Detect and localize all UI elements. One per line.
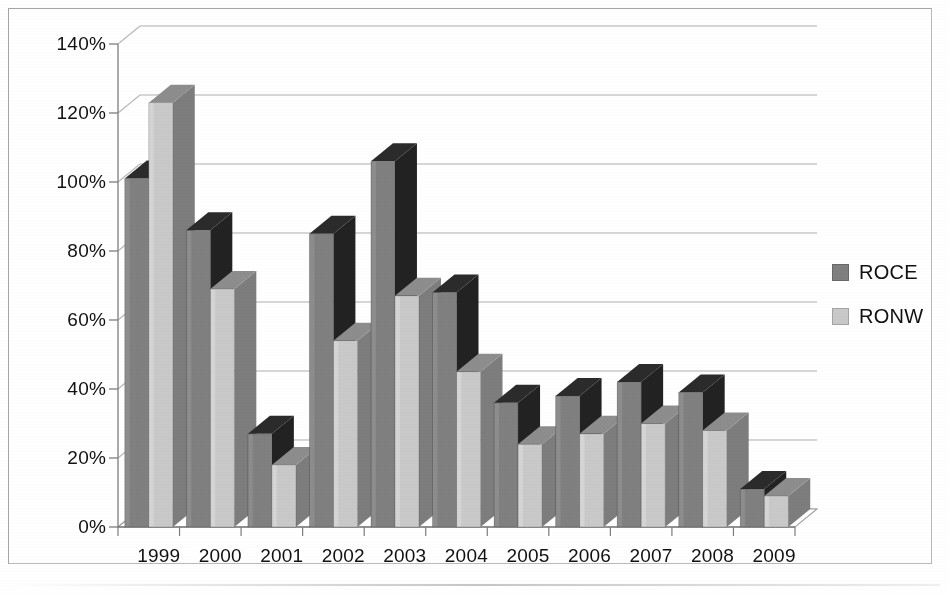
legend-label-roce: ROCE — [859, 261, 918, 284]
y-axis-label-40: 40% — [67, 378, 106, 400]
y-axis-label-140: 140% — [57, 33, 106, 55]
legend-label-ronw: RONW — [859, 305, 924, 328]
x-axis-label-1999: 1999 — [137, 545, 180, 567]
legend-item-ronw[interactable]: RONW — [832, 294, 942, 338]
y-axis-label-60: 60% — [67, 309, 106, 331]
x-axis-label-2007: 2007 — [629, 545, 672, 567]
y-axis-tick-labels: 0%20%40%60%80%100%120%140% — [18, 0, 106, 593]
x-axis-label-2008: 2008 — [691, 545, 734, 567]
x-axis-label-2000: 2000 — [199, 545, 242, 567]
legend-swatch-ronw — [832, 308, 849, 325]
y-axis-label-0: 0% — [78, 516, 106, 538]
x-axis-label-2003: 2003 — [383, 545, 426, 567]
x-axis-label-2001: 2001 — [260, 545, 303, 567]
chart-root: 0%20%40%60%80%100%120%140% 1999200020012… — [0, 0, 948, 593]
x-axis-tick-labels: 1999200020012002200320042005200620072008… — [0, 545, 948, 577]
x-axis-label-2009: 2009 — [753, 545, 796, 567]
y-axis-label-80: 80% — [67, 240, 106, 262]
legend-swatch-roce — [832, 264, 849, 281]
x-axis-label-2002: 2002 — [322, 545, 365, 567]
y-axis-label-100: 100% — [57, 171, 106, 193]
bar-chart-plot — [0, 0, 948, 593]
bar-group-1999 — [125, 85, 195, 527]
x-axis-label-2006: 2006 — [568, 545, 611, 567]
x-axis-label-2005: 2005 — [506, 545, 549, 567]
page-bottom-edge — [10, 584, 940, 586]
y-axis-label-120: 120% — [57, 102, 106, 124]
x-axis-label-2004: 2004 — [445, 545, 488, 567]
chart-legend: ROCERONW — [832, 250, 942, 338]
legend-item-roce[interactable]: ROCE — [832, 250, 942, 294]
y-axis-label-20: 20% — [67, 447, 106, 469]
